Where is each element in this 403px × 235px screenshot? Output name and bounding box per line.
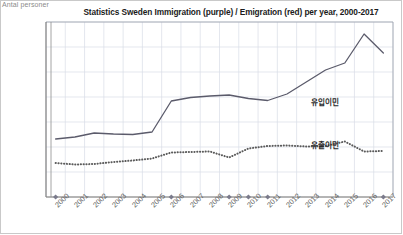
x-tick-label: 2010 bbox=[245, 191, 263, 209]
immigration-emigration-line-chart: Antal personer Statistics Sweden Immigra… bbox=[0, 0, 403, 235]
x-tick-label: 2001 bbox=[72, 191, 90, 209]
x-tick-label: 2012 bbox=[284, 191, 302, 209]
x-tick-label: 2007 bbox=[188, 191, 206, 209]
series-annotation: 유입이민 bbox=[311, 96, 339, 107]
x-tick-label: 2006 bbox=[168, 191, 186, 209]
x-tick-label: 2017 bbox=[380, 191, 398, 209]
x-tick-label: 2014 bbox=[323, 191, 341, 209]
x-tick-label: 2016 bbox=[361, 191, 379, 209]
series-annotation: 유출이민 bbox=[311, 139, 339, 150]
x-tick-label: 2005 bbox=[149, 191, 167, 209]
x-tick-label: 2009 bbox=[226, 191, 244, 209]
x-tick-label: 2000 bbox=[53, 191, 71, 209]
x-tick-label: 2004 bbox=[130, 191, 148, 209]
x-tick-label: 2008 bbox=[207, 191, 225, 209]
x-tick-label: 2011 bbox=[265, 192, 283, 210]
x-tick-label: 2002 bbox=[91, 191, 109, 209]
x-tick-label: 2013 bbox=[303, 191, 321, 209]
x-tick-label: 2003 bbox=[110, 191, 128, 209]
x-axis-tick-labels: 2000200120022003200420052006200720082009… bbox=[0, 0, 403, 235]
x-tick-label: 2015 bbox=[342, 191, 360, 209]
